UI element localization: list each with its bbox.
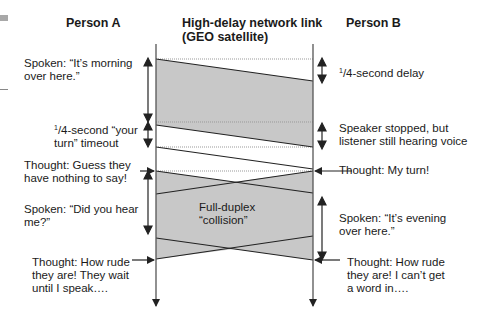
header-link-line2: (GEO satellite) [182,30,322,44]
right-annotation-spoken-evening: Spoken: “It’s evening over here.” [339,212,446,238]
right-annotation-delay: 1/4-second delay [339,64,424,80]
collision-label: Full-duplex “collision” [199,201,255,227]
right-annotation-my-turn: Thought: My turn! [339,164,429,177]
left-annotation-spoken-morning: Spoken: “It’s morning over here.” [24,57,132,83]
header-person-b: Person B [346,16,401,30]
header-link: High-delay network link (GEO satellite) [182,16,322,44]
header-person-a: Person A [66,16,120,30]
left-annotation-spoken-hear: Spoken: “Did you hear me?” [24,203,138,229]
left-annotation-thought-nothing: Thought: Guess they have nothing to say! [24,159,131,185]
header-link-line1: High-delay network link [182,16,322,30]
left-annotation-timeout: 1/4-second “your turn” timeout [54,121,138,150]
left-annotation-thought-rude: Thought: How rude they are! They wait un… [32,256,130,295]
right-annotation-thought-rude: Thought: How rude they are! I can’t get … [347,256,445,295]
right-annotation-speaker-stopped: Speaker stopped, but listener still hear… [339,122,467,148]
a-speech-band [156,59,313,147]
